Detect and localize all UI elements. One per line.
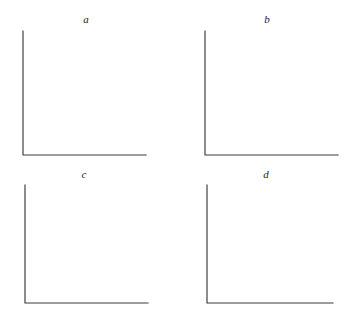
panel-d-axis-lines: [207, 185, 333, 303]
panel-d-axes: [0, 0, 345, 317]
figure-canvas: a b c d: [0, 0, 345, 317]
